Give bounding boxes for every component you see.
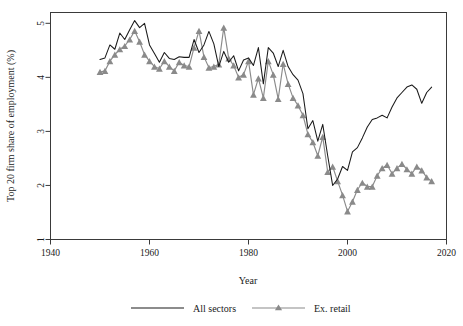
chart-svg: 12345 19401960198020002020 Top 20 firm s… xyxy=(0,0,463,326)
y-tick-label: 5 xyxy=(36,21,46,26)
x-tick-label: 1980 xyxy=(239,248,258,258)
chart-figure: 12345 19401960198020002020 Top 20 firm s… xyxy=(0,0,463,326)
y-tick-label: 4 xyxy=(36,75,46,80)
x-tick-label: 1960 xyxy=(140,248,159,258)
x-tick-label: 2000 xyxy=(338,248,357,258)
y-tick-label: 3 xyxy=(36,129,46,134)
legend-label-ex-retail: Ex. retail xyxy=(314,303,351,314)
x-axis-title: Year xyxy=(239,275,258,286)
x-tick-label: 1940 xyxy=(41,248,60,258)
legend-label-all-sectors: All sectors xyxy=(193,303,236,314)
chart-background xyxy=(0,0,463,326)
y-tick-label: 1 xyxy=(36,237,46,242)
y-axis-title: Top 20 firm share of employment (%) xyxy=(5,50,17,202)
x-tick-label: 2020 xyxy=(437,248,456,258)
y-tick-label: 2 xyxy=(36,183,46,188)
